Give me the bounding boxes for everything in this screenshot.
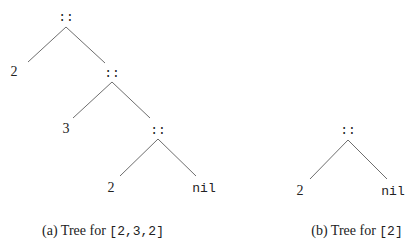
caption-b-code: [2] [379, 224, 402, 239]
caption-b: (b) Tree for [2] [311, 223, 402, 239]
node-value-2: 2 [11, 65, 18, 79]
edge-a-mid-left [73, 82, 112, 118]
edge-a-root-left [28, 27, 66, 62]
node-cons-mid: :: [104, 67, 120, 80]
edge-b-right [348, 140, 387, 179]
node-value-2: 2 [297, 184, 304, 198]
edge-a-low-right [158, 139, 196, 176]
caption-a-code: [2,3,2] [109, 224, 164, 239]
edge-a-root-right [66, 27, 105, 63]
edge-b-left [310, 140, 348, 179]
edge-a-low-left [120, 139, 158, 176]
caption-a: (a) Tree for [2,3,2] [42, 223, 164, 239]
node-cons-root: :: [58, 11, 74, 24]
caption-b-text: (b) Tree for [311, 223, 379, 238]
node-cons-root: :: [340, 124, 356, 137]
caption-a-text: (a) Tree for [42, 223, 109, 238]
edge-a-mid-right [112, 82, 150, 118]
node-value-2-leaf: 2 [108, 181, 115, 195]
node-cons-low: :: [150, 124, 166, 137]
node-value-3: 3 [63, 122, 70, 136]
node-nil: nil [192, 182, 215, 195]
node-nil: nil [381, 185, 404, 198]
